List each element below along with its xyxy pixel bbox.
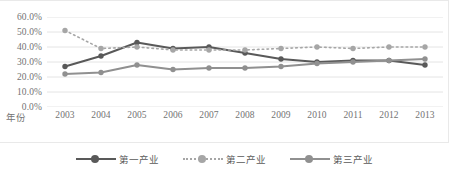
legend-swatch-icon xyxy=(76,154,116,164)
x-axis-tick-2003: 2003 xyxy=(55,110,74,120)
legend-label: 第二产业 xyxy=(226,152,266,166)
x-axis-tick-labels: 2003200420052006200720082009201020112012… xyxy=(0,110,449,128)
chart-legend: 第一产业第二产业第三产业 xyxy=(0,152,449,166)
data-point-第二产业-2012 xyxy=(386,44,391,49)
data-point-第三产业-2012 xyxy=(386,58,391,63)
x-axis-tick-2013: 2013 xyxy=(415,110,434,120)
data-point-第三产业-2013 xyxy=(422,56,427,61)
data-point-第一产业-2004 xyxy=(98,53,103,58)
y-axis-tick-labels: 0.0%10.0%20.0%30.0%40.0%50.0%60.0% xyxy=(0,17,45,107)
data-point-第二产业-2010 xyxy=(314,44,319,49)
data-point-第三产业-2010 xyxy=(314,61,319,66)
data-point-第二产业-2003 xyxy=(62,28,67,33)
legend-marker-icon xyxy=(198,155,206,163)
legend-item-第三产业[interactable]: 第三产业 xyxy=(290,152,373,166)
legend-marker-icon xyxy=(91,155,99,163)
x-axis-tick-2012: 2012 xyxy=(379,110,398,120)
x-axis-tick-2004: 2004 xyxy=(91,110,110,120)
data-point-第三产业-2003 xyxy=(62,71,67,76)
y-axis-tick-40.0%: 40.0% xyxy=(17,42,42,52)
x-axis-tick-2006: 2006 xyxy=(163,110,182,120)
data-point-第二产业-2013 xyxy=(422,44,427,49)
y-axis-tick-20.0%: 20.0% xyxy=(17,72,42,82)
x-axis-tick-2008: 2008 xyxy=(235,110,254,120)
chart-canvas xyxy=(47,17,443,107)
x-axis-tick-2005: 2005 xyxy=(127,110,146,120)
y-axis-tick-50.0%: 50.0% xyxy=(17,27,42,37)
data-point-第二产业-2004 xyxy=(98,46,103,51)
data-point-第一产业-2009 xyxy=(278,56,283,61)
data-point-第三产业-2007 xyxy=(206,65,211,70)
legend-swatch-icon xyxy=(290,154,330,164)
data-point-第二产业-2007 xyxy=(206,47,211,52)
data-point-第三产业-2005 xyxy=(134,62,139,67)
legend-item-第二产业[interactable]: 第二产业 xyxy=(183,152,266,166)
legend-swatch-icon xyxy=(183,154,223,164)
data-point-第三产业-2006 xyxy=(170,67,175,72)
plot-area xyxy=(47,17,443,107)
data-point-第二产业-2008 xyxy=(242,47,247,52)
y-axis-tick-10.0%: 10.0% xyxy=(17,87,42,97)
legend-label: 第一产业 xyxy=(119,152,159,166)
legend-item-第一产业[interactable]: 第一产业 xyxy=(76,152,159,166)
x-axis-tick-2009: 2009 xyxy=(271,110,290,120)
data-point-第三产业-2008 xyxy=(242,65,247,70)
data-point-第三产业-2004 xyxy=(98,70,103,75)
data-point-第二产业-2006 xyxy=(170,47,175,52)
y-axis-tick-30.0%: 30.0% xyxy=(17,57,42,67)
x-axis-tick-2007: 2007 xyxy=(199,110,218,120)
data-point-第二产业-2009 xyxy=(278,46,283,51)
data-point-第二产业-2005 xyxy=(134,44,139,49)
y-axis-tick-60.0%: 60.0% xyxy=(17,12,42,22)
line-chart: 0.0%10.0%20.0%30.0%40.0%50.0%60.0% 年份 20… xyxy=(0,0,449,180)
data-point-第一产业-2013 xyxy=(422,62,427,67)
x-axis-tick-2010: 2010 xyxy=(307,110,326,120)
data-point-第二产业-2011 xyxy=(350,46,355,51)
legend-label: 第三产业 xyxy=(333,152,373,166)
data-point-第三产业-2009 xyxy=(278,64,283,69)
data-point-第三产业-2011 xyxy=(350,59,355,64)
legend-marker-icon xyxy=(305,155,313,163)
x-axis-tick-2011: 2011 xyxy=(343,110,362,120)
data-point-第一产业-2003 xyxy=(62,64,67,69)
